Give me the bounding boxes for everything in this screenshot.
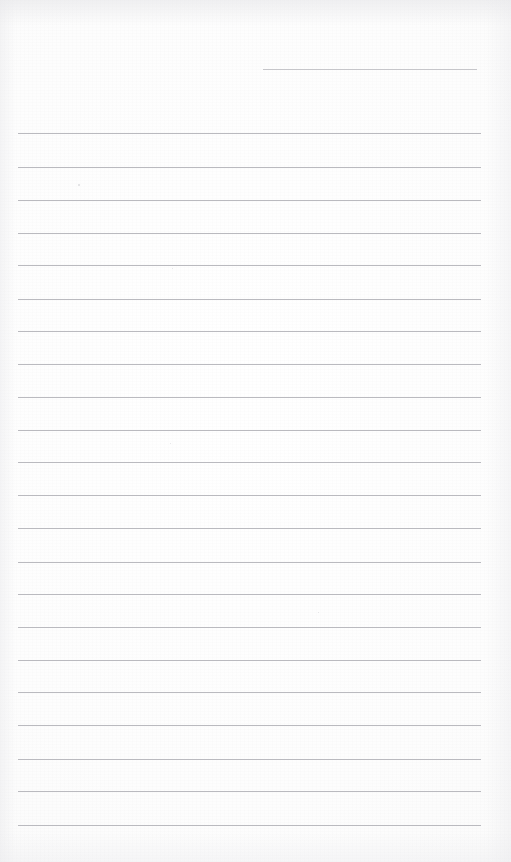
ruled-line [18,430,481,431]
ruled-line [18,397,481,398]
ruled-line [18,133,481,134]
ruled-line [18,299,481,300]
scan-speck [78,184,80,186]
ruled-line [18,791,481,792]
ruled-line [18,562,481,563]
ruled-line [18,725,481,726]
ruled-line [18,692,481,693]
ruled-line [18,495,481,496]
scan-speck [172,268,173,269]
ruled-line [18,167,481,168]
ruled-line [18,331,481,332]
ruled-line [18,233,481,234]
ruled-line [18,364,481,365]
ruled-line [18,528,481,529]
scan-speck [318,612,319,613]
ruled-line [18,825,481,826]
ruled-line [18,200,481,201]
scanned-paper-page [0,0,511,862]
ruled-line [18,660,481,661]
ruled-line-partial [263,69,477,70]
ruled-line [18,759,481,760]
ruled-line [18,627,481,628]
scan-speck [170,443,171,444]
ruled-line [18,462,481,463]
ruled-line [18,594,481,595]
ruled-lines-group [0,0,511,862]
ruled-line [18,265,481,266]
